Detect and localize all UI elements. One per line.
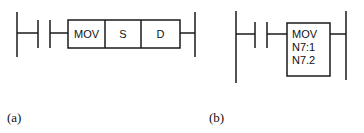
ladder-rung-b: MOV N7:1 N7.2 (b) [209,11,346,125]
contact-icon-a [38,20,50,48]
ladder-rung-a: MOV S D (a) [7,12,195,125]
caption-b: (b) [209,110,224,125]
mov-instruction-box-b: MOV N7:1 N7.2 [287,23,330,76]
ladder-diagrams: MOV S D (a) MOV N7:1 N7.2 (b) [0,0,364,133]
mov-instruction-box-a: MOV S D [68,20,180,48]
mnemonic-label-a: MOV [74,28,100,40]
caption-a: (a) [7,110,21,125]
source-label-a: S [119,28,126,40]
contact-icon-b [255,22,267,48]
mnemonic-label-b: MOV [292,28,318,40]
destination-label-a: D [157,28,165,40]
destination-label-b: N7.2 [292,54,315,66]
source-label-b: N7:1 [292,41,315,53]
